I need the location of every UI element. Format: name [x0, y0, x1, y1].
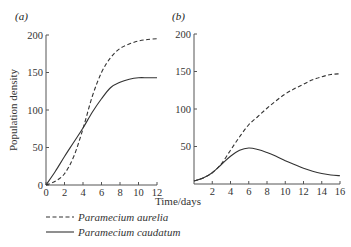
x-tick-label: 4: [80, 187, 86, 198]
y-tick-label: 200: [175, 29, 191, 40]
panel-label-a: (a): [15, 10, 28, 23]
y-tick-label: 150: [175, 66, 191, 77]
x-tick-label: 10: [133, 187, 144, 198]
y-tick-label: 50: [181, 141, 192, 152]
curve-caudatum-a: [46, 78, 157, 185]
panel-label-b: (b): [172, 10, 185, 23]
x-tick-label: 2: [210, 186, 215, 197]
x-tick-label: 8: [264, 186, 269, 197]
y-axis-title: Population density: [7, 68, 19, 151]
curve-aurelia-b: [194, 74, 340, 181]
y-tick-label: 100: [27, 105, 43, 116]
y-tick-label: 100: [175, 104, 191, 115]
y-tick-label: 50: [33, 142, 44, 153]
y-tick-label: 0: [38, 180, 43, 191]
legend-label-caudatum: Paramecium caudatum: [77, 226, 180, 238]
x-tick-label: 0: [43, 187, 48, 198]
x-tick-label: 10: [280, 186, 291, 197]
x-tick-label: 4: [228, 186, 234, 197]
x-tick-label: 12: [152, 187, 163, 198]
panel-b: 50100150200 246810121416: [175, 29, 345, 198]
y-tick-label: 200: [27, 30, 43, 41]
x-tick-label: 16: [335, 186, 346, 197]
legend: Paramecium aurelia Paramecium caudatum: [46, 211, 180, 238]
x-tick-label: 6: [99, 187, 104, 198]
panel-a: 050100150200 024681012: [27, 30, 162, 199]
x-tick-label: 12: [298, 186, 309, 197]
x-tick-label: 14: [317, 186, 328, 197]
x-tick-label: 8: [117, 187, 122, 198]
x-tick-label: 2: [62, 187, 67, 198]
legend-label-aurelia: Paramecium aurelia: [77, 211, 169, 223]
curve-aurelia-a: [46, 39, 157, 185]
y-tick-label: 150: [27, 67, 43, 78]
chart-figure: (a) (b) Population density Time/days 050…: [0, 0, 351, 247]
curve-caudatum-b: [194, 148, 340, 181]
x-tick-label: 6: [246, 186, 251, 197]
